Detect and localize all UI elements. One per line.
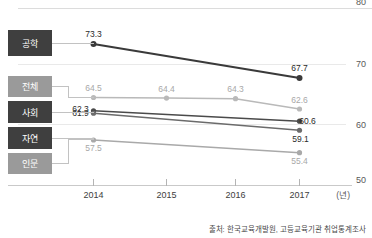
x-axis-unit-label: (년) — [336, 190, 350, 200]
value-label-전체-2015: 64.4 — [158, 84, 175, 94]
legend-label-인문: 인문 — [22, 159, 38, 169]
datapoint-전체-2016 — [233, 96, 238, 101]
x-axis-label-2015: 2015 — [156, 190, 176, 200]
value-label-사회-2017: 60.6 — [299, 116, 316, 126]
legend-label-전체: 전체 — [22, 82, 38, 92]
x-axis-label-2016: 2016 — [225, 190, 245, 200]
datapoint-전체-2017 — [297, 106, 302, 111]
y-tick-label-60: 60 — [356, 120, 366, 130]
value-label-인문-2017: 55.4 — [291, 156, 308, 166]
employment-rate-line-chart: 80706050 73.367.764.564.464.362.662.360.… — [0, 0, 372, 238]
datapoint-전체-2015 — [164, 95, 169, 100]
gridlines-group: 80706050 — [8, 0, 372, 186]
series-group — [94, 44, 300, 153]
legend-callouts-group: 공학전체사회자연인문 — [8, 30, 94, 174]
chart-canvas: 80706050 73.367.764.564.464.362.662.360.… — [0, 0, 372, 238]
legend-label-공학: 공학 — [22, 39, 38, 49]
y-tick-label-80: 80 — [356, 0, 366, 7]
legend-label-자연: 자연 — [22, 134, 38, 144]
y-tick-label-50: 50 — [356, 175, 366, 185]
x-axis-label-2014: 2014 — [83, 190, 103, 200]
legend-label-사회: 사회 — [22, 108, 38, 118]
value-label-자연-2014: 61.9 — [72, 108, 89, 118]
datapoint-인문-2017 — [297, 150, 302, 155]
x-axis-label-2017: 2017 — [289, 190, 309, 200]
value-label-인문-2014: 57.5 — [85, 143, 102, 153]
axis-labels-group: 2014201520162017(년) — [83, 179, 350, 200]
value-label-전체-2017: 62.6 — [291, 95, 308, 105]
value-label-공학-2014: 73.3 — [85, 29, 102, 39]
datapoint-공학-2017 — [297, 75, 303, 81]
datapoint-자연-2014 — [91, 111, 96, 116]
series-line-전체 — [94, 97, 300, 109]
value-label-공학-2017: 67.7 — [291, 63, 308, 73]
datapoint-공학-2014 — [91, 41, 97, 47]
series-line-공학 — [94, 44, 300, 78]
source-note: 출처: 한국교육개발원, 고등교육기관 취업통계조사 — [209, 224, 366, 234]
series-line-인문 — [94, 140, 300, 153]
value-label-전체-2014: 64.5 — [85, 83, 102, 93]
value-label-전체-2016: 64.3 — [227, 84, 244, 94]
value-label-자연-2017: 59.1 — [292, 134, 309, 144]
y-tick-label-70: 70 — [356, 59, 366, 69]
datapoint-자연-2017 — [297, 128, 302, 133]
